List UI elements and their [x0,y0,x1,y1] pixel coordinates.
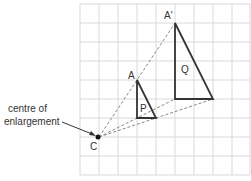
triangle-p-label: P [140,103,147,114]
centre-annotation-line1: centre of [8,103,47,114]
centre-point [96,135,101,140]
annotation-arrow [62,122,96,136]
grid [80,4,250,175]
triangle-q-label: Q [181,64,189,75]
enlargement-diagram: centre of enlargement C A P A' Q [0,0,251,181]
centre-label: C [90,141,97,152]
vertex-a-prime-label: A' [164,10,173,21]
vertex-a-label: A [128,70,135,81]
centre-annotation-line2: enlargement [4,116,60,127]
